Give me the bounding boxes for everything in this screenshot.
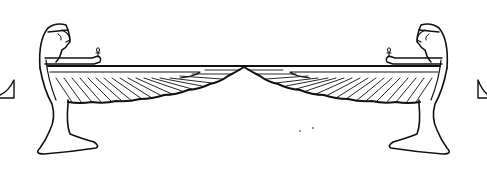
ankh-icon	[387, 48, 391, 57]
right-goddess	[386, 24, 449, 154]
ankh-icon	[96, 48, 100, 57]
illustration	[0, 0, 487, 172]
left-goddess	[38, 24, 101, 154]
ink-specks	[299, 127, 314, 132]
left-triangle-fragment	[0, 80, 14, 98]
left-wing	[48, 66, 244, 103]
right-triangle-fragment	[478, 80, 487, 98]
right-wing	[244, 66, 440, 103]
